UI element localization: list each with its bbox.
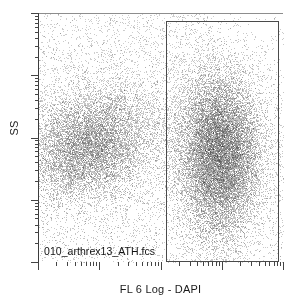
- x-axis-ticks: [38, 262, 284, 271]
- x-tick: [161, 262, 162, 270]
- x-tick: [38, 262, 39, 270]
- x-tick: [222, 262, 223, 270]
- file-name-label: 010_arthrex13_ATH.fcs: [44, 245, 155, 257]
- flow-cytometry-plot: 010_arthrex13_ATH.fcs FL 6 Log - DAPI SS: [0, 0, 302, 306]
- x-tick: [99, 262, 100, 270]
- x-axis-label: FL 6 Log - DAPI: [38, 283, 283, 295]
- x-tick: [283, 262, 284, 270]
- scatter-plot-canvas: [39, 14, 284, 263]
- x-tick: [161, 262, 162, 270]
- x-tick: [222, 262, 223, 270]
- y-axis-label: SS: [8, 108, 20, 148]
- plot-frame: [38, 13, 283, 262]
- y-tick: [31, 262, 39, 263]
- x-tick: [99, 262, 100, 270]
